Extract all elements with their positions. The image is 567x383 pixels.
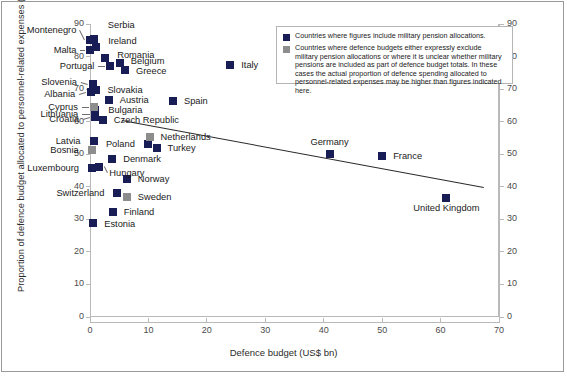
x-tick [206,318,207,323]
y-tick-label: 30 [507,213,527,223]
point-label: Finland [124,207,155,217]
data-point-marker [113,189,121,197]
y-axis-title: Proportion of defence budget allocated t… [16,22,26,292]
label-leader-line [82,107,89,108]
data-point-marker [101,54,109,62]
label-leader-line [82,114,90,115]
point-label: Poland [106,139,135,149]
legend-swatch-dark-icon [283,34,290,41]
point-label: United Kingdom [406,203,486,213]
point-label: Luxembourg [27,163,79,173]
data-point-marker [105,96,113,104]
label-leader-line [98,66,105,67]
point-label: Serbia [108,20,135,30]
point-label: Ireland [108,36,136,46]
x-tick-label: 0 [78,325,102,335]
legend: Countries where figures include military… [276,26,513,84]
point-label: Turkey [168,143,196,153]
x-tick-label: 60 [429,325,453,335]
data-point-marker [88,164,96,172]
point-label: Spain [184,96,208,106]
data-point-marker [89,219,97,227]
data-point-marker [153,144,161,152]
point-label: Albania [44,89,75,99]
y-tick-label: 20 [64,246,84,256]
label-leader-line [80,50,85,51]
data-point-marker [146,133,154,141]
label-leader-line [79,30,85,40]
data-point-marker [109,208,117,216]
point-label: Bosnia [50,145,78,155]
point-label: Austria [120,95,149,105]
x-axis-line [90,322,500,323]
y-tick-label: 30 [64,213,84,223]
data-point-marker [169,97,177,105]
legend-swatch-grey-icon [283,46,290,53]
point-label: Croatia [49,114,79,124]
point-label: Bulgaria [108,105,142,115]
y-tick-label: 10 [64,278,84,288]
point-label: Germany [290,137,370,147]
point-label: Cyprus [48,102,77,112]
data-point-marker [442,194,450,202]
data-point-marker [123,193,131,201]
x-tick [323,318,324,323]
point-label: France [393,151,422,161]
data-point-marker [88,146,96,154]
point-label: Switzerland [56,188,104,198]
chart-page: Proportion of defence budget allocated t… [0,0,567,383]
x-tick [382,318,383,323]
point-label: Estonia [104,219,135,229]
y-tick-label: 20 [507,246,527,256]
x-tick [265,318,266,323]
point-label: Malta [54,45,77,55]
point-label: Sweden [138,192,172,202]
data-point-marker [378,152,386,160]
data-point-marker [92,43,100,51]
x-axis-title: Defence budget (US$ bn) [2,347,565,358]
data-point-marker [226,61,234,69]
point-label: Italy [241,60,258,70]
y-tick-label: 70 [507,83,527,93]
x-tick-label: 70 [487,325,511,335]
data-point-marker [90,35,98,43]
x-tick-label: 10 [136,325,160,335]
y-tick-label: 0 [507,311,527,321]
data-point-marker [106,62,114,70]
legend-label-excluded: Countries where defence budgets either e… [295,44,506,96]
point-label: Denmark [123,154,161,164]
point-label: Norway [138,174,170,184]
data-point-marker [144,140,152,148]
data-point-marker [108,155,116,163]
legend-entry-included: Countries where figures include military… [283,32,506,41]
data-point-marker [121,66,129,74]
label-leader-line [79,92,86,95]
x-tick [499,318,500,323]
x-tick [90,318,91,323]
x-tick [148,318,149,323]
chart-frame: Proportion of defence budget allocated t… [1,1,564,372]
data-point-marker [99,116,107,124]
y-tick-label: 50 [507,148,527,158]
legend-entry-excluded: Countries where defence budgets either e… [283,44,506,96]
point-label: Netherlands [161,132,211,142]
point-label: Montenegro [27,25,77,35]
point-label: Greece [136,66,167,76]
x-tick-label: 50 [370,325,394,335]
x-tick-label: 20 [195,325,219,335]
y-tick-label: 40 [507,181,527,191]
point-label: Slovenia [41,77,77,87]
y-tick-label: 60 [507,116,527,126]
x-tick-label: 30 [253,325,277,335]
data-point-marker [90,137,98,145]
y-tick-label: 10 [507,278,527,288]
data-point-marker [90,103,98,111]
point-label: Portugal [60,61,95,71]
point-label: Belgium [131,56,165,66]
data-point-marker [87,88,95,96]
x-tick-label: 40 [312,325,336,335]
legend-label-included: Countries where figures include military… [295,32,486,41]
y-tick-label: 0 [64,311,84,321]
x-tick [440,318,441,323]
data-point-marker [95,163,103,171]
